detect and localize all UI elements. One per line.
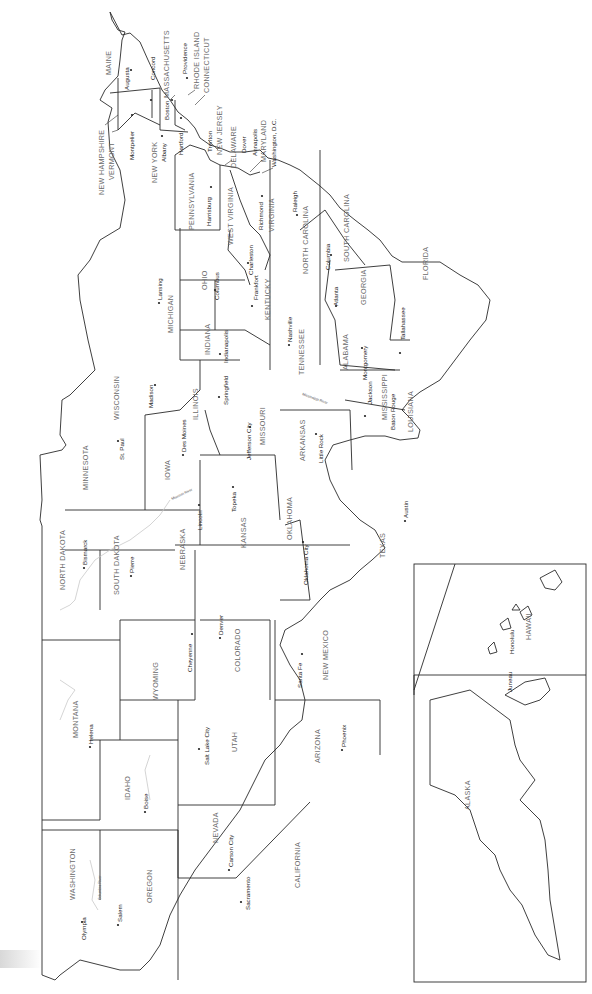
city-label-phoenix: Phoenix [340,724,347,747]
city-label-helena: Helena [87,724,94,744]
state-label-illinois: ILLINOIS [191,388,200,420]
state-label-arizona: ARIZONA [313,729,322,763]
city-label-bismarck: Bismarck [81,539,88,565]
state-label-michigan: MICHIGAN [166,295,175,333]
river-label-mississippi: Mississippi River [302,392,329,405]
city-label-montpelier: Montpelier [128,131,135,160]
city-label-baton-rouge: Baton Rouge [389,393,396,430]
city-label-columbus: Columbus [213,272,220,300]
city-label-honolulu: Honolulu [508,629,515,654]
state-label-georgia: GEORGIA [359,269,368,305]
state-label-iowa: IOWA [163,460,172,480]
city-label-topeka: Topeka [230,491,237,512]
state-label-new-york: NEW YORK [150,142,159,183]
city-label-cheyenne: Cheyenne [186,643,193,672]
river-label-missouri: Missouri River [171,487,194,501]
state-label-rhode-island: RHODE ISLAND [192,31,201,89]
state-label-louisiana: LOUISIANA [406,391,415,432]
city-label-richmond: Richmond [257,202,264,230]
city-label-salem: Salem [116,904,123,922]
state-label-pennsylvania: PENNSYLVANIA [187,172,196,230]
city-label-frankfort: Frankfort [252,275,259,300]
city-label-juneau: Juneau [506,671,513,692]
state-label-north-dakota: NORTH DAKOTA [58,530,67,590]
state-label-massachusetts: MASSACHUSETTS [162,30,171,98]
state-label-delaware: DELAWARE [229,126,238,168]
state-label-alabama: ALABAMA [341,334,350,370]
state-label-hawaii: HAWAII [524,613,533,640]
city-label-oklahoma-city: Oklahoma City [302,544,309,585]
city-label-carson-city: Carson City [227,834,234,867]
state-label-vermont: VERMONT [107,142,116,180]
state-label-south-dakota: SOUTH DAKOTA [112,535,121,595]
state-label-wisconsin: WISCONSIN [112,376,121,420]
state-label-arkansas: ARKANSAS [298,419,307,461]
city-label-santa-fe: Santa Fe [296,662,303,688]
city-label-augusta: Augusta [123,67,130,90]
state-label-ohio: OHIO [200,270,209,290]
city-label-pierre: Pierre [128,556,135,573]
city-label-harrisburg: Harrisburg [205,197,212,226]
city-label-denver: Denver [217,615,224,635]
state-label-indiana: INDIANA [203,324,212,355]
state-label-new-jersey: NEW JERSEY [215,105,224,155]
state-label-new-hampshire: NEW HAMPSHIRE [97,130,106,195]
city-label-des-moines: Des Moines [180,419,187,452]
city-label-albany: Albany [160,142,167,162]
city-label-little-rock: Little Rock [317,433,324,463]
city-label-montgomery: Montgomery [361,345,368,380]
state-label-connecticut: CONNECTICUT [202,37,211,93]
state-label-virginia: VIRGINIA [267,198,276,232]
state-label-north-carolina: NORTH CAROLINA [301,206,310,274]
state-label-alaska: ALASKA [463,780,472,810]
inset-frames [414,564,586,982]
hawaii-islands [488,570,562,654]
city-label-boise: Boise [142,793,149,809]
city-label-atlanta: Atlanta [332,286,339,306]
city-label-boston: Boston [163,100,170,120]
city-label-jackson: Jackson [366,381,373,404]
state-label-idaho: IDAHO [123,776,132,800]
city-label-annapolis: Annapolis [251,129,258,156]
city-label-concord: Concord [149,56,156,80]
city-label-lincoln: Lincoln [196,510,203,530]
state-labels: MAINE NEW HAMPSHIRE VERMONT MASSACHUSETT… [58,30,533,903]
city-label-indianapolis: Indianapolis [222,330,229,363]
state-label-utah: UTAH [230,732,239,752]
state-label-nevada: NEVADA [211,812,220,843]
city-label-washington-dc: Washington, D.C. [270,118,277,167]
page-shadow [0,950,42,968]
city-label-olympia: Olympia [80,917,87,940]
us-states-map: MAINE NEW HAMPSHIRE VERMONT MASSACHUSETT… [0,0,592,994]
state-label-oklahoma: OKLAHOMA [285,497,294,540]
city-label-providence: Providence [181,42,188,74]
state-label-maine: MAINE [104,51,113,75]
city-label-sacramento: Sacramento [244,876,251,910]
alaska-outline [430,690,560,960]
state-label-florida: FLORIDA [421,247,430,280]
city-label-madison: Madison [147,384,154,408]
state-label-washington: WASHINGTON [68,848,77,900]
state-label-new-mexico: NEW MEXICO [321,630,330,680]
city-label-st-paul: St. Paul [118,438,125,460]
city-label-salt-lake-city: Salt Lake City [203,726,210,765]
city-label-columbia: Columbia [324,243,331,270]
city-label-jefferson-city: Jefferson City [245,421,252,460]
state-label-wyoming: WYOMING [151,662,160,700]
city-label-springfield: Springfield [222,375,229,405]
city-label-raleigh: Raleigh [291,190,298,212]
state-label-texas: TEXAS [378,533,387,558]
state-label-montana: MONTANA [71,700,80,738]
city-label-hartford: Hartford [177,132,184,155]
state-label-nebraska: NEBRASKA [178,528,187,570]
state-label-mississippi: MISSISSIPPI [380,374,389,420]
state-label-minnesota: MINNESOTA [81,445,90,490]
river-label-columbia: Columbia River [98,875,102,900]
state-label-oregon: OREGON [145,869,154,903]
city-label-austin: Austin [402,500,409,518]
city-label-dover: Dover [240,136,247,153]
city-label-charleston: Charleston [247,245,254,275]
state-label-maryland: MARYLAND [259,120,268,162]
state-label-west-virginia: WEST VIRGINIA [226,187,235,245]
state-label-south-carolina: SOUTH CAROLINA [342,194,351,262]
